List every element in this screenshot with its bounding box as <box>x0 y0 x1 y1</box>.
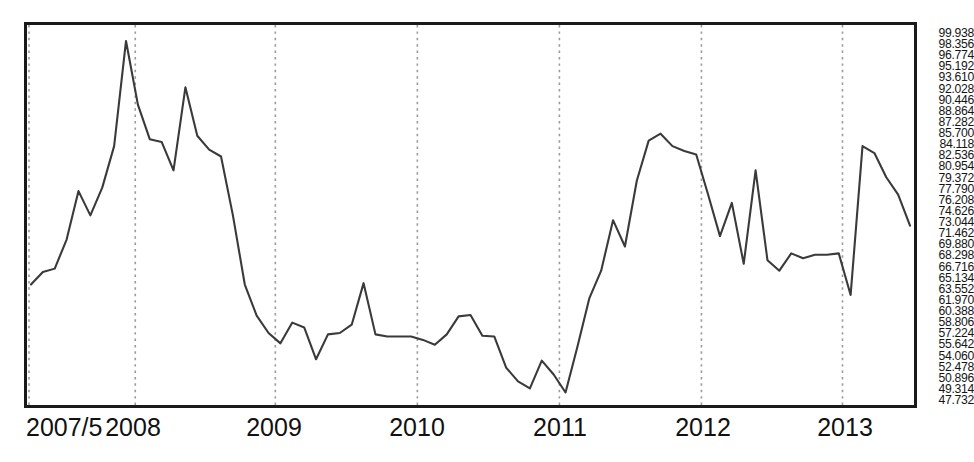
plot-area <box>24 22 917 408</box>
gridlines <box>29 25 842 405</box>
data-series <box>31 41 910 393</box>
x-axis-tick: 2010 <box>389 412 445 442</box>
x-axis-tick: 2011 <box>533 412 587 442</box>
x-axis-tick: 2009 <box>246 412 302 442</box>
y-axis-tick: 47.732 <box>939 395 974 406</box>
x-axis-tick: 2008 <box>105 412 161 442</box>
chart-title <box>0 0 974 10</box>
x-axis-tick: 2013 <box>817 412 873 442</box>
x-axis-tick: 2007/5 <box>26 412 102 442</box>
plot-svg <box>27 25 914 405</box>
x-axis-tick-labels: 2007/5200820092010201120122013 <box>0 412 974 452</box>
y-axis-tick-labels: 99.93898.35696.77495.19293.61092.02890.4… <box>922 22 974 408</box>
series-line <box>31 41 910 393</box>
x-axis-tick: 2012 <box>675 412 731 442</box>
line-chart: 99.93898.35696.77495.19293.61092.02890.4… <box>0 0 974 462</box>
